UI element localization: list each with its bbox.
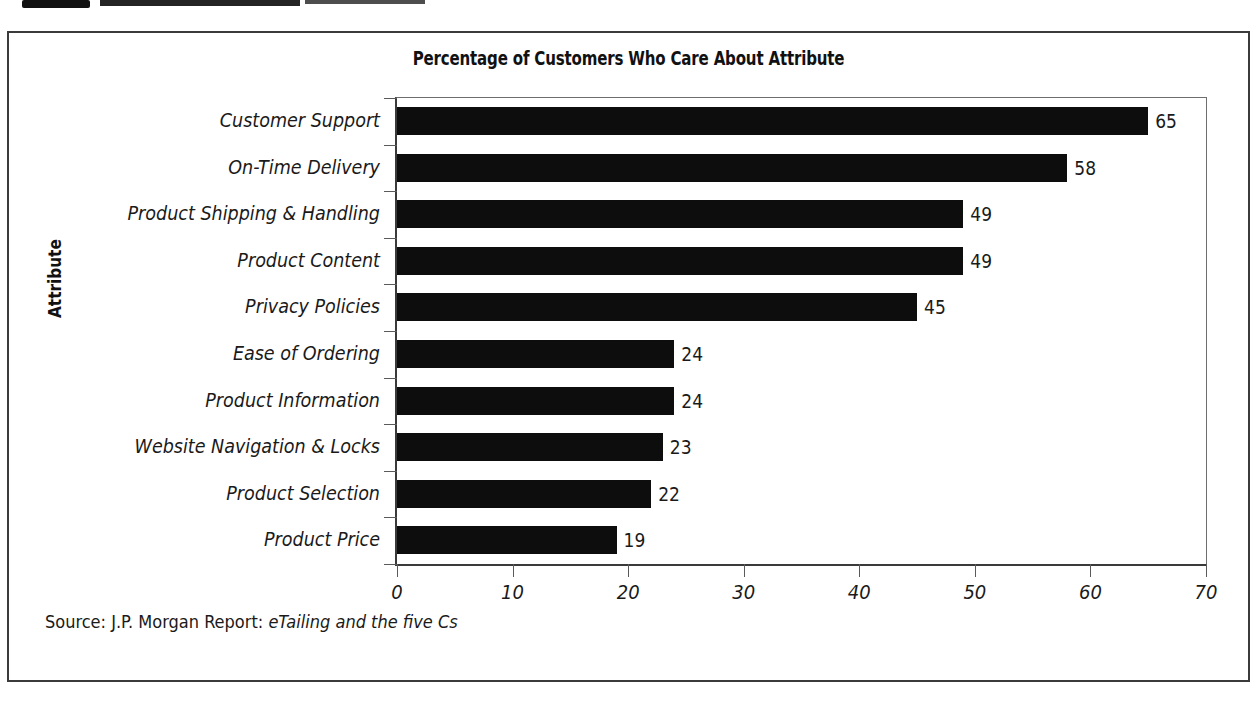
bar [397,340,674,368]
bar-value-label: 19 [617,526,646,554]
bar-value-label: 49 [963,200,992,228]
y-axis-title: Attribute [45,239,65,318]
x-axis-tick [628,564,629,577]
bar [397,293,917,321]
artifact-block [100,0,300,6]
bar-value-label: 58 [1067,154,1096,182]
bar-value-label: 24 [674,387,703,415]
category-label: Product Information [205,387,380,415]
category-label: Product Content [237,247,380,275]
bar-row: Ease of Ordering24 [397,331,1206,378]
x-axis-tick [975,564,976,577]
plot-area: Customer Support65On-Time Delivery58Prod… [395,97,1207,566]
x-axis-tick [513,564,514,577]
bar-row: Product Content49 [397,238,1206,285]
x-axis-tick-label: 20 [617,580,640,604]
source-title: eTailing and the five Cs [268,611,457,632]
x-axis-tick-label: 60 [1079,580,1102,604]
bar-row: On-Time Delivery58 [397,145,1206,192]
y-axis-tick [384,284,397,285]
artifact-block [305,0,425,4]
x-axis-tick [859,564,860,577]
category-label: Customer Support [220,107,380,135]
category-label: Product Selection [226,480,380,508]
bar-row: Product Selection22 [397,471,1206,518]
y-axis-tick [384,564,397,565]
bar-value-label: 65 [1148,107,1177,135]
bar-value-label: 22 [651,480,680,508]
y-axis-tick [384,471,397,472]
bar-value-label: 49 [963,247,992,275]
category-label: Ease of Ordering [233,340,380,368]
bar-value-label: 23 [663,433,692,461]
bar-row: Product Price19 [397,517,1206,564]
bar-row: Website Navigation & Locks23 [397,424,1206,471]
x-axis-tick [397,564,398,577]
y-axis-tick [384,98,397,99]
bar-row: Product Shipping & Handling49 [397,191,1206,238]
bar [397,480,651,508]
x-axis-tick [744,564,745,577]
y-axis-tick [384,238,397,239]
x-axis-tick [1090,564,1091,577]
scan-artifact-strip [0,0,430,9]
category-label: Product Shipping & Handling [128,200,380,228]
y-axis-tick [384,424,397,425]
source-note: Source: J.P. Morgan Report: eTailing and… [45,611,458,632]
bar-value-label: 45 [917,293,946,321]
x-axis-tick-label: 40 [848,580,871,604]
category-label: On-Time Delivery [228,154,380,182]
x-axis-tick-label: 0 [391,580,402,604]
bar [397,154,1067,182]
x-axis-tick-label: 50 [963,580,986,604]
bar [397,433,663,461]
y-axis-tick [384,145,397,146]
x-axis-tick-label: 30 [732,580,755,604]
y-axis-tick [384,517,397,518]
y-axis-tick [384,331,397,332]
bar-row: Privacy Policies45 [397,284,1206,331]
artifact-block [22,0,90,8]
x-axis-tick-label: 70 [1195,580,1218,604]
bar [397,526,617,554]
category-label: Privacy Policies [245,293,380,321]
bar [397,200,963,228]
bar-row: Product Information24 [397,378,1206,425]
bar-row: Customer Support65 [397,98,1206,145]
chart-title: Percentage of Customers Who Care About A… [83,47,1173,69]
bar-value-label: 24 [674,340,703,368]
x-axis-tick [1206,564,1207,577]
y-axis-tick [384,191,397,192]
figure-frame: Percentage of Customers Who Care About A… [7,31,1250,682]
bar [397,247,963,275]
source-prefix: Source: J.P. Morgan Report: [45,611,263,632]
bar [397,107,1148,135]
bar [397,387,674,415]
y-axis-tick [384,378,397,379]
category-label: Website Navigation & Locks [135,433,380,461]
x-axis-tick-label: 10 [501,580,524,604]
category-label: Product Price [264,526,380,554]
